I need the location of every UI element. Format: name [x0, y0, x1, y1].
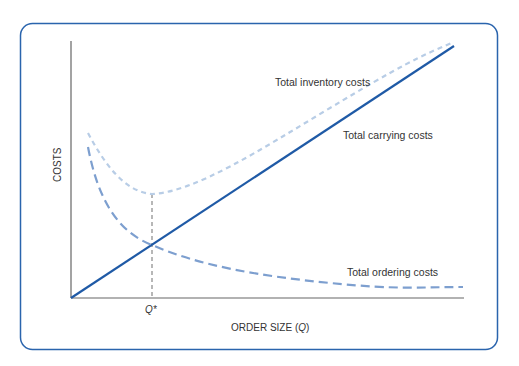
label-total-ordering-costs: Total ordering costs	[347, 266, 438, 278]
label-total-inventory-costs: Total inventory costs	[275, 76, 370, 88]
label-total-carrying-costs: Total carrying costs	[343, 129, 433, 141]
chart-frame	[21, 24, 498, 350]
x-axis-label-suffix: )	[306, 322, 309, 333]
x-tick-q-star: Q*	[145, 304, 158, 315]
y-axis-label: COSTS	[52, 147, 63, 182]
x-axis-label-prefix: ORDER SIZE (	[231, 322, 299, 333]
x-axis-label: ORDER SIZE (Q)	[231, 322, 309, 333]
eoq-chart: Total inventory costs Total carrying cos…	[0, 0, 519, 366]
